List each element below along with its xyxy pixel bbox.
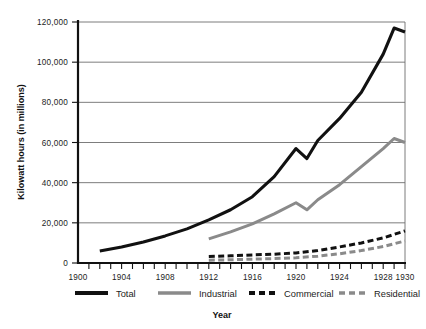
series-line-commercial [209,231,405,257]
series-line-total [100,28,405,251]
legend-label-industrial: Industrial [199,289,237,299]
series-line-industrial [209,138,405,238]
y-tick-label: 80,000 [42,98,68,107]
legend-label-commercial: Commercial [284,289,334,299]
y-axis-ticks: 020,00040,00060,00080,000100,000120,000 [37,18,78,268]
legend-item-residential: Residential [339,289,420,299]
x-tick-label: 1904 [112,273,131,282]
chart-legend: Total Industrial Commercial Residential [75,289,420,299]
y-axis-title: Kilowatt hours (in millions) [16,84,26,200]
x-tick-label: 1924 [330,273,349,282]
x-tick-label: 1928 [374,273,393,282]
legend-item-commercial: Commercial [249,289,334,299]
chart-container: Kilowatt hours (in millions) 020,00040,0… [0,0,426,329]
legend-label-total: Total [116,289,136,299]
y-tick-label: 40,000 [42,179,68,188]
y-tick-label: 0 [63,259,68,268]
y-tick-label: 60,000 [42,139,68,148]
y-tick-label: 100,000 [37,58,68,67]
legend-label-residential: Residential [374,289,420,299]
y-tick-label: 20,000 [42,219,68,228]
x-tick-label: 1908 [156,273,175,282]
x-tick-label: 1920 [286,273,305,282]
x-tick-label: 1900 [68,273,87,282]
x-axis-title: Year [212,310,232,320]
legend-item-total: Total [75,289,136,299]
legend-item-industrial: Industrial [158,289,237,299]
gridlines [78,22,405,223]
x-axis-ticks: 190019041908191219161920192419281930 [68,263,414,282]
x-tick-label: 1912 [199,273,218,282]
x-tick-label: 1916 [243,273,262,282]
y-tick-label: 120,000 [37,18,68,27]
line-chart: Kilowatt hours (in millions) 020,00040,0… [0,0,426,329]
x-tick-label: 1930 [395,273,414,282]
